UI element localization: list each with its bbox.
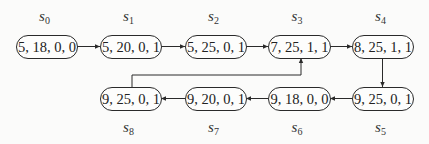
node-value: 5, 25, 0, 1	[187, 39, 245, 55]
edge-s1-to-s2	[161, 44, 185, 48]
state-node-s5: 9, 25, 0, 1	[353, 88, 414, 111]
state-node-s1: 5, 20, 0, 1	[101, 36, 162, 59]
state-label-subscript: 0	[45, 15, 50, 26]
arrowhead-icon	[263, 44, 268, 48]
state-label-s4: s4	[375, 8, 386, 26]
state-node-s8: 9, 25, 0, 1	[101, 88, 162, 111]
state-labels-group: s0s1s2s3s4s5s6s7s8	[39, 8, 386, 137]
edge-s3-to-s4	[330, 44, 352, 48]
edge-s6-to-s7	[246, 96, 268, 100]
state-label-s5: s5	[375, 119, 386, 137]
state-label-s0: s0	[39, 8, 50, 26]
edge-s8-to-s3	[132, 58, 303, 87]
state-label-subscript: 4	[381, 15, 386, 26]
edge-s7-to-s8	[161, 96, 185, 100]
state-label-subscript: 7	[214, 126, 219, 137]
node-value: 9, 25, 0, 1	[354, 91, 412, 107]
node-value: 9, 20, 0, 1	[187, 91, 245, 107]
arrowhead-icon	[347, 44, 352, 48]
edge-s0-to-s1	[77, 44, 100, 48]
state-label-s6: s6	[292, 119, 303, 137]
edge-s5-to-s6	[330, 96, 352, 100]
state-node-s4: 8, 25, 1, 1	[353, 36, 414, 59]
state-label-s3: s3	[292, 8, 303, 26]
state-label-s8: s8	[123, 119, 134, 137]
state-diagram: 5, 18, 0, 05, 20, 0, 15, 25, 0, 17, 25, …	[0, 0, 429, 144]
edge-line	[132, 58, 301, 87]
edge-s4-to-s5	[380, 58, 384, 87]
state-label-s2: s2	[208, 8, 219, 26]
state-label-subscript: 6	[297, 126, 302, 137]
node-value: 5, 20, 0, 1	[102, 39, 160, 55]
arrowhead-icon	[95, 44, 100, 48]
state-node-s2: 5, 25, 0, 1	[186, 36, 247, 59]
node-value: 5, 18, 0, 0	[18, 39, 76, 55]
node-value: 9, 25, 0, 1	[102, 91, 160, 107]
state-label-subscript: 1	[129, 15, 134, 26]
state-node-s6: 9, 18, 0, 0	[269, 88, 331, 111]
state-node-s7: 9, 20, 0, 1	[186, 88, 247, 111]
edge-s2-to-s3	[246, 44, 268, 48]
nodes-group: 5, 18, 0, 05, 20, 0, 15, 25, 0, 17, 25, …	[17, 36, 414, 111]
node-value: 8, 25, 1, 1	[354, 39, 412, 55]
state-label-subscript: 3	[297, 15, 302, 26]
state-label-s1: s1	[123, 8, 134, 26]
state-label-subscript: 5	[381, 126, 386, 137]
state-label-s7: s7	[208, 119, 219, 137]
state-node-s0: 5, 18, 0, 0	[17, 36, 78, 59]
state-label-subscript: 2	[214, 15, 219, 26]
state-label-subscript: 8	[129, 126, 134, 137]
arrowhead-icon	[180, 44, 185, 48]
node-value: 9, 18, 0, 0	[271, 91, 329, 107]
state-node-s3: 7, 25, 1, 1	[269, 36, 331, 59]
arrowhead-icon	[380, 82, 384, 87]
node-value: 7, 25, 1, 1	[271, 39, 329, 55]
